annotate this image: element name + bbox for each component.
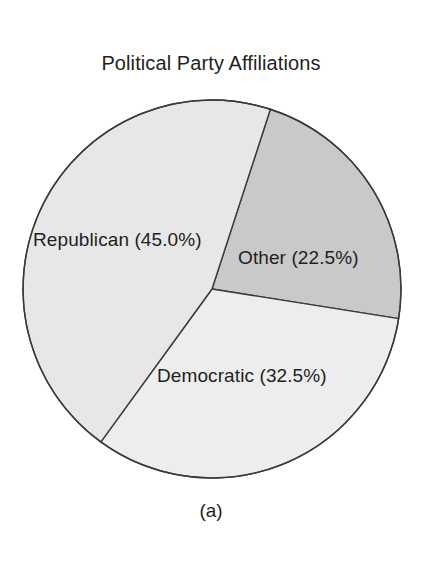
pie-label-democratic: Democratic (32.5%) (157, 366, 327, 385)
pie-label-republican: Republican (45.0%) (33, 230, 202, 249)
pie-slices (23, 100, 401, 478)
pie-label-other: Other (22.5%) (238, 248, 359, 267)
figure-caption: (a) (0, 500, 422, 522)
pie-chart-figure: Political Party Affiliations Republican … (0, 0, 422, 562)
pie-chart-canvas (0, 0, 422, 562)
